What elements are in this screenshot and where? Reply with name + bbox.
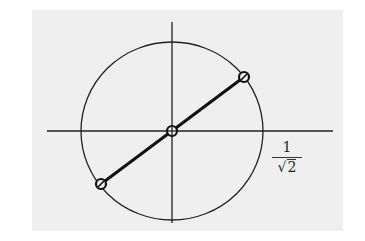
one-over-root-two-label: 1 √2 — [270, 139, 304, 176]
radical-sign: √ — [278, 158, 287, 176]
label-numerator: 1 — [270, 139, 304, 157]
unit-circle-diagram — [0, 0, 365, 241]
label-denominator: √2 — [270, 158, 304, 176]
radicand: 2 — [287, 159, 297, 175]
